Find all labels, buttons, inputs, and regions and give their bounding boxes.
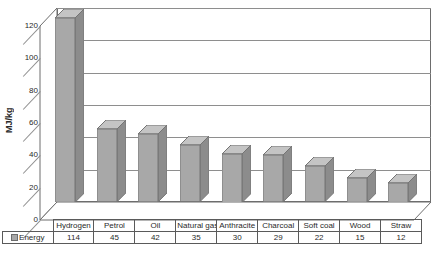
table-category-cell: Anthracite — [217, 220, 258, 232]
bar-3d-faces — [263, 146, 292, 202]
bar-anthracite — [222, 145, 251, 203]
legend-entry-energy: Energy — [3, 232, 54, 244]
table-value-cell: 29 — [258, 232, 299, 244]
table-value-cell: 15 — [340, 232, 381, 244]
legend-series-label: Energy — [19, 233, 44, 243]
table-category-cell: Soft coal — [299, 220, 340, 232]
table-value-cell: 35 — [176, 232, 217, 244]
table-category-cell: Petrol — [94, 220, 135, 232]
table-value-cell: 114 — [53, 232, 94, 244]
table-row-values: Energy1144542353029221512 — [3, 232, 422, 244]
bar-3d-faces — [138, 125, 167, 202]
bar-soft-coal — [305, 157, 334, 202]
bar-oil — [138, 125, 167, 202]
bar-3d-faces — [388, 174, 417, 202]
table-value-cell: 12 — [381, 232, 422, 244]
bar-3d-faces — [55, 9, 84, 202]
table-category-cell: Charcoal — [258, 220, 299, 232]
bar-hydrogen — [55, 9, 84, 202]
bar-natural-gas — [180, 136, 209, 202]
bar-3d-faces — [347, 169, 376, 202]
table-value-cell: 22 — [299, 232, 340, 244]
energy-density-bar-chart: MJ/kg 120100806040200 HydrogenPetrolOilN… — [0, 0, 439, 266]
bar-3d-faces — [97, 120, 126, 202]
table-category-cell: Hydrogen — [53, 220, 94, 232]
y-axis-tick-labels: 120100806040200 — [14, 0, 40, 218]
bar-wood — [347, 169, 376, 202]
bar-straw — [388, 174, 417, 202]
bar-series-energy — [40, 8, 432, 220]
table-category-cell: Straw — [381, 220, 422, 232]
plot-area — [40, 8, 432, 220]
data-table: HydrogenPetrolOilNatural gasAnthraciteCh… — [2, 219, 422, 244]
bar-charcoal — [263, 146, 292, 202]
table-value-cell: 30 — [217, 232, 258, 244]
table-legend-spacer — [3, 220, 54, 232]
table-category-cell: Wood — [340, 220, 381, 232]
table-category-cell: Natural gas — [176, 220, 217, 232]
table-category-cell: Oil — [135, 220, 176, 232]
table-value-cell: 42 — [135, 232, 176, 244]
bar-petrol — [97, 120, 126, 202]
bar-3d-faces — [305, 157, 334, 202]
table-row-categories: HydrogenPetrolOilNatural gasAnthraciteCh… — [3, 220, 422, 232]
bar-3d-faces — [180, 136, 209, 202]
legend-swatch-icon — [11, 234, 18, 241]
bar-3d-faces — [222, 145, 251, 203]
table-value-cell: 45 — [94, 232, 135, 244]
